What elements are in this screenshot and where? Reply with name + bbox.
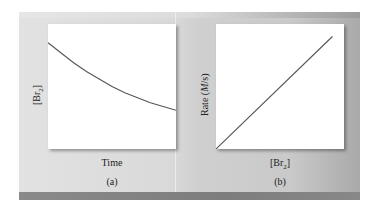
x-axis-label-a: Time [48, 157, 176, 168]
caption-b: (b) [216, 176, 344, 187]
bottom-bar [19, 192, 360, 200]
linear-line [216, 24, 344, 149]
y-axis-label-b: Rate (M/s) [199, 74, 210, 117]
decay-curve [48, 24, 176, 149]
figure-panel: [Br2] Time (a) Rate (M/s) [Br2] (b) [19, 12, 360, 200]
plot-a [48, 24, 176, 149]
y-axis-label-a: [Br2] [31, 85, 45, 105]
plot-b [216, 24, 344, 149]
panel-top-edge [19, 12, 360, 18]
x-axis-label-b: [Br2] [216, 157, 344, 171]
caption-a: (a) [48, 176, 176, 187]
